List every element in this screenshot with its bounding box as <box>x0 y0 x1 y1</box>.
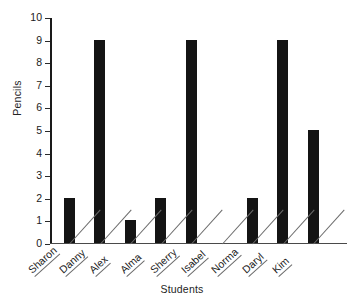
y-axis-tick-label: 6 <box>26 102 42 112</box>
bar <box>308 130 319 243</box>
x-axis-category-label: Alex <box>87 254 111 277</box>
y-axis-tick-label: 10 <box>26 12 42 22</box>
y-axis-tick-mark <box>45 176 50 177</box>
y-axis-tick-label: 3 <box>26 170 42 180</box>
y-axis-tick-label: 9 <box>26 35 42 45</box>
x-axis-category-label: Danny <box>57 247 88 277</box>
y-axis-tick-mark <box>45 131 50 132</box>
x-axis-title: Students <box>0 283 364 295</box>
bar <box>186 40 197 243</box>
y-axis-tick-label: 2 <box>26 193 42 203</box>
y-axis-tick-label: 8 <box>26 57 42 67</box>
y-axis-tick-label: 1 <box>26 215 42 225</box>
x-axis-category-label: Kim <box>270 255 292 277</box>
y-axis-tick-mark <box>45 154 50 155</box>
y-axis-tick-label: 0 <box>26 238 42 248</box>
y-axis-tick-label: 4 <box>26 148 42 158</box>
x-axis-category-label: Daryl <box>240 251 267 277</box>
bar-chart: Pencils 012345678910 SharonDannyAlexAlma… <box>0 0 364 303</box>
y-axis-line <box>50 18 52 244</box>
bar <box>155 198 166 243</box>
y-axis-title: Pencils <box>11 68 23 128</box>
y-axis-tick-mark <box>45 221 50 222</box>
y-axis-tick-mark <box>45 18 50 19</box>
x-axis-category-label: Sherry <box>148 247 180 277</box>
x-axis-category-label: Sharon <box>26 245 60 277</box>
bar <box>247 198 258 243</box>
plot-area <box>50 18 347 244</box>
y-axis-tick-mark <box>45 86 50 87</box>
y-axis-tick-mark <box>45 63 50 64</box>
y-axis-tick-mark <box>45 108 50 109</box>
y-axis-tick-mark <box>45 41 50 42</box>
y-axis-tick-label: 5 <box>26 125 42 135</box>
bar <box>64 198 75 243</box>
x-axis-category-label: Norma <box>209 246 241 277</box>
x-axis-category-label: Alma <box>118 251 144 277</box>
y-axis-tick-mark <box>45 199 50 200</box>
x-axis-category-label: Isabel <box>179 249 209 277</box>
y-axis-tick-label: 7 <box>26 80 42 90</box>
